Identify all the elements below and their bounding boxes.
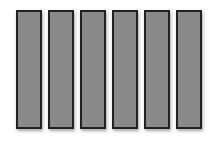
gray-rectangle-6 <box>176 10 202 129</box>
gray-rectangle-4 <box>112 10 138 129</box>
gray-rectangle-1 <box>16 10 42 129</box>
gray-rectangle-3 <box>80 10 106 129</box>
gray-rectangle-5 <box>144 10 170 129</box>
gray-rectangle-2 <box>48 10 74 129</box>
